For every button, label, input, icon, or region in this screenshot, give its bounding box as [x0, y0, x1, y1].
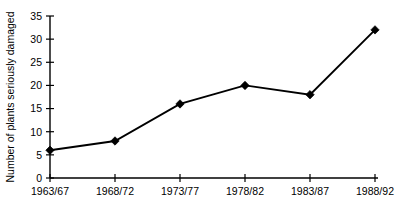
- data-point-marker[interactable]: 1973/77: 16: [176, 100, 184, 108]
- y-axis-tick-label: 5: [36, 149, 42, 161]
- y-axis-tick-label: 20: [30, 79, 42, 91]
- series-line-plants-damaged: [50, 30, 375, 150]
- y-axis-tick-label: 10: [30, 126, 42, 138]
- chart-canvas: Number of plants seriously damaged051015…: [0, 0, 410, 212]
- x-axis-tick-label: 1983/87: [291, 185, 329, 197]
- x-axis-tick-label: 1973/77: [161, 185, 199, 197]
- line-chart: Number of plants seriously damaged051015…: [0, 0, 410, 212]
- x-axis-tick-label: 1978/82: [226, 185, 264, 197]
- data-point-marker[interactable]: 1963/67: 6: [46, 146, 54, 154]
- y-axis-tick-label: 25: [30, 56, 42, 68]
- x-axis-tick-label: 1988/92: [356, 185, 394, 197]
- y-axis-tick-label: 35: [30, 10, 42, 22]
- data-point-marker[interactable]: 1978/82: 20: [241, 81, 249, 89]
- y-axis-tick-label: 30: [30, 33, 42, 45]
- x-axis-tick-label: 1968/72: [96, 185, 134, 197]
- y-axis-tick-label: 0: [36, 172, 42, 184]
- data-point-marker[interactable]: 1968/72: 8: [111, 137, 119, 145]
- x-axis-tick-label: 1963/67: [31, 185, 69, 197]
- y-axis-label: Number of plants seriously damaged: [4, 11, 16, 182]
- y-axis-tick-label: 15: [30, 102, 42, 114]
